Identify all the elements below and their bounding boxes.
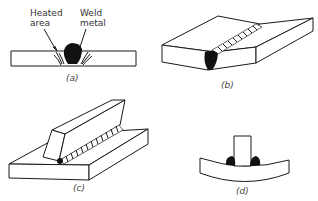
- caption-d: (d): [236, 186, 249, 196]
- weld-metal-label-line2: metal: [80, 18, 106, 28]
- weld-metal-label-line1: Weld: [80, 8, 102, 18]
- upright-d: [234, 136, 251, 166]
- panel-a: Heated area Weld metal (a): [11, 8, 136, 83]
- caption-b: (b): [221, 80, 234, 90]
- plate-c-front: [9, 164, 89, 180]
- panel-c: (c): [9, 100, 148, 193]
- heated-area-label-line2: area: [30, 18, 50, 28]
- heated-area-label-line1: Heated: [30, 8, 63, 18]
- heated-area-leader: [44, 29, 56, 50]
- panel-d: (d): [200, 136, 289, 196]
- left-fillet-weld-d: [226, 156, 235, 166]
- weld-end-c: [57, 158, 63, 164]
- weld-metal-leader: [80, 29, 86, 47]
- caption-c: (c): [73, 183, 85, 193]
- panel-b: (b): [162, 16, 313, 90]
- right-fillet-weld-d: [250, 156, 260, 166]
- caption-a: (a): [66, 73, 79, 83]
